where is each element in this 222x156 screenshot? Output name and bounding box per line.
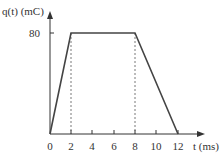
x-axis-arrow-icon [197, 131, 205, 137]
x-tick-label: 2 [68, 140, 74, 152]
x-axis-label: t (ms) [193, 140, 219, 153]
q-waveform [50, 33, 178, 134]
x-tick-label: 10 [151, 140, 163, 152]
x-tick-label: 4 [89, 140, 95, 152]
x-ticks [71, 130, 178, 134]
x-tick-label: 0 [47, 140, 53, 152]
y-axis-label: q(t) (mC) [2, 5, 44, 18]
x-tick-label: 8 [132, 140, 138, 152]
x-tick-label: 6 [111, 140, 117, 152]
y-tick-label-80: 80 [29, 27, 41, 39]
y-axis-arrow-icon [47, 11, 53, 19]
x-tick-label: 12 [173, 140, 184, 152]
charge-chart: q(t) (mC) 80 0 2 4 6 8 10 12 t (ms) [0, 0, 222, 156]
